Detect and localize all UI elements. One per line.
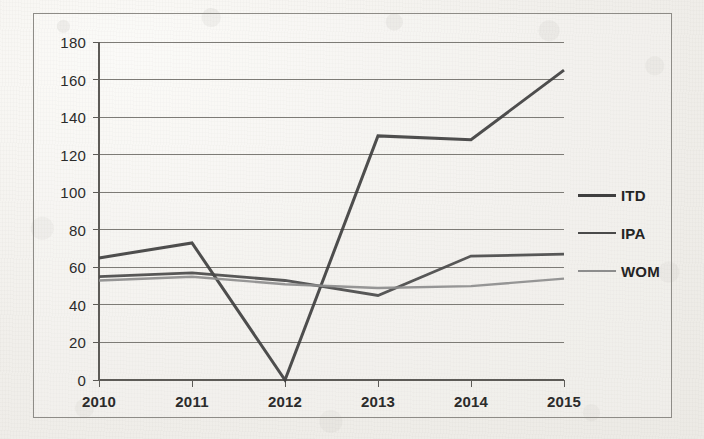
y-axis-tick-label: 160 [34, 71, 86, 88]
legend-line-swatch [578, 194, 616, 197]
x-axis-tick-label: 2011 [175, 393, 208, 410]
chart-frame: 020406080100120140160180 201020112012201… [33, 13, 672, 418]
x-axis-tick-label: 2013 [361, 393, 395, 410]
legend-line-swatch [578, 270, 616, 272]
legend-item-itd: ITD [578, 176, 660, 214]
legend-item-label: IPA [621, 225, 646, 242]
y-axis-tick-label: 180 [34, 34, 86, 51]
y-axis-tick-label: 20 [34, 334, 86, 351]
legend-item-label: ITD [621, 187, 646, 204]
x-axis-tick-label: 2014 [454, 393, 488, 410]
y-axis-tick-label: 100 [34, 184, 86, 201]
y-axis-tick-label: 40 [34, 296, 86, 313]
y-axis-tick-label: 80 [34, 221, 86, 238]
x-axis-tick-label: 2010 [82, 393, 116, 410]
y-axis-tick-label: 140 [34, 109, 86, 126]
x-axis-tick-label: 2012 [268, 393, 302, 410]
x-axis-tick-label: 2015 [547, 393, 581, 410]
chart-legend: ITDIPAWOM [578, 176, 660, 290]
legend-line-swatch [578, 232, 616, 234]
legend-item-wom: WOM [578, 252, 660, 290]
legend-item-label: WOM [621, 263, 660, 280]
y-axis-tick-label: 120 [34, 146, 86, 163]
y-axis-tick-label: 0 [34, 372, 86, 389]
series-line-wom [99, 277, 564, 288]
y-axis-tick-label: 60 [34, 259, 86, 276]
legend-item-ipa: IPA [578, 214, 660, 252]
scanned-page-background: 020406080100120140160180 201020112012201… [0, 0, 704, 439]
